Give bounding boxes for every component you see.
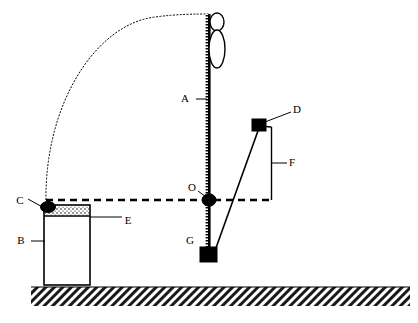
ground-group — [31, 287, 410, 306]
blocks-group — [200, 119, 272, 262]
block-connector-line — [212, 128, 259, 259]
label-A: A — [181, 92, 189, 104]
stick-figure — [209, 13, 225, 68]
label-E: E — [125, 214, 132, 226]
bucket-body — [44, 205, 90, 285]
label-B: B — [17, 234, 24, 246]
upper-block — [252, 119, 266, 131]
label-F: F — [289, 156, 295, 168]
projectile-arc — [46, 14, 208, 203]
label-O: O — [188, 181, 196, 193]
vertical-pole-hatch-edge — [206, 14, 208, 256]
stick-figure-body-icon — [209, 30, 225, 68]
ground-hatching — [31, 287, 410, 306]
label-D: D — [293, 103, 301, 115]
leader-line-O — [198, 191, 206, 197]
label-G: G — [186, 234, 194, 246]
physics-diagram-figure: A B C D E F G O — [0, 0, 418, 323]
bucket-group — [41, 202, 91, 286]
label-C: C — [16, 194, 23, 206]
lower-block — [200, 247, 217, 262]
leader-line-D — [265, 112, 291, 122]
diagram-canvas: A B C D E F G O — [0, 0, 418, 323]
stick-figure-head-icon — [210, 13, 224, 31]
